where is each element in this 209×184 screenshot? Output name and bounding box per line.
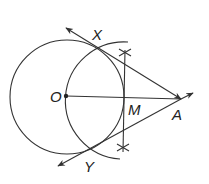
circle-M-arc	[65, 42, 128, 159]
label-X: X	[91, 26, 103, 43]
tangent-ray-AY	[58, 99, 181, 166]
label-O: O	[50, 88, 62, 105]
label-A: A	[171, 106, 182, 123]
center-point-O	[64, 94, 68, 98]
geometry-diagram: O X M A Y	[0, 0, 209, 184]
label-M: M	[128, 101, 141, 118]
label-Y: Y	[84, 158, 95, 175]
perpendicular-bisector	[123, 50, 125, 152]
ray-extension-A	[181, 93, 193, 99]
